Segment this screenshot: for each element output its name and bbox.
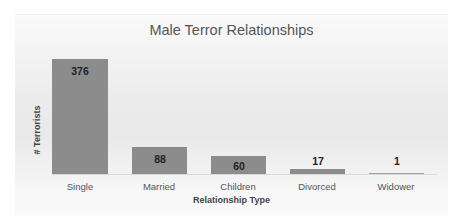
x-axis-label: Relationship Type [15, 195, 448, 205]
category-label-divorced: Divorced [277, 181, 357, 192]
chart-title: Male Terror Relationships [15, 22, 448, 38]
x-axis-line [52, 174, 437, 175]
value-label-single: 376 [52, 65, 108, 77]
value-label-widower: 1 [369, 155, 425, 167]
value-label-married: 88 [132, 153, 188, 165]
category-label-single: Single [40, 181, 120, 192]
y-axis-label: # Terrorists [32, 106, 42, 155]
bar-divorced [290, 169, 345, 174]
category-label-children: Children [198, 181, 278, 192]
value-label-children: 60 [211, 160, 267, 172]
category-label-married: Married [119, 181, 199, 192]
value-label-divorced: 17 [290, 155, 346, 167]
bar-widower [369, 173, 424, 174]
category-label-widower: Widower [356, 181, 436, 192]
chart-area: Male Terror Relationships # Terrorists 3… [15, 14, 448, 216]
